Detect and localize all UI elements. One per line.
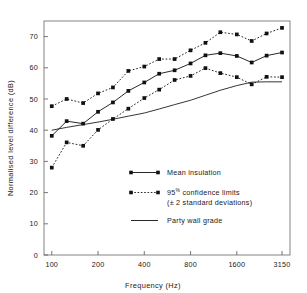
- data-point: [50, 104, 54, 108]
- legend-marker-mean-right: [156, 171, 160, 175]
- data-point: [235, 75, 239, 79]
- data-point: [111, 86, 115, 90]
- data-point: [189, 48, 193, 52]
- data-point: [50, 134, 54, 138]
- y-tick-label-20: 20: [30, 188, 38, 197]
- data-point: [280, 51, 284, 55]
- data-point: [235, 33, 239, 37]
- data-point: [157, 88, 161, 92]
- data-point: [173, 57, 177, 61]
- data-point: [280, 75, 284, 79]
- data-point: [127, 107, 131, 111]
- chart-canvas: 010203040506070 10020040080016003150 Fre…: [0, 0, 307, 293]
- y-tick-label-10: 10: [30, 219, 38, 228]
- chart-figure: 010203040506070 10020040080016003150 Fre…: [0, 0, 307, 293]
- legend-marker-confidence-left: [129, 191, 133, 195]
- data-point: [157, 72, 161, 76]
- x-tick-label-1600: 1600: [228, 260, 245, 269]
- data-point: [280, 26, 284, 30]
- data-point: [265, 75, 269, 79]
- data-point: [235, 54, 239, 58]
- data-point: [96, 92, 100, 96]
- legend-label-grade: Party wall grade: [167, 216, 223, 225]
- x-axis-title: Frequency (Hz): [125, 281, 181, 290]
- y-tick-label-50: 50: [30, 95, 38, 104]
- data-point: [218, 51, 222, 55]
- data-point: [65, 119, 69, 123]
- y-tick-label-30: 30: [30, 157, 38, 166]
- data-point: [81, 101, 85, 105]
- data-point: [111, 101, 115, 105]
- data-point: [204, 66, 208, 70]
- data-point: [250, 82, 254, 86]
- data-point: [218, 71, 222, 75]
- y-tick-label-0: 0: [34, 251, 38, 260]
- data-point: [265, 32, 269, 36]
- data-point: [142, 65, 146, 69]
- x-tick-label-800: 800: [184, 260, 197, 269]
- data-point: [189, 74, 193, 78]
- legend-label-confidence-line2: (± 2 standard deviations): [167, 198, 252, 207]
- data-point: [50, 166, 54, 170]
- data-point: [127, 89, 131, 93]
- legend-marker-confidence-right: [156, 191, 160, 195]
- data-point: [142, 81, 146, 85]
- data-point: [157, 57, 161, 61]
- data-point: [250, 61, 254, 65]
- x-tick-label-3150: 3150: [274, 260, 291, 269]
- y-axis-title: Normalised level difference (dB): [6, 80, 15, 196]
- y-tick-label-60: 60: [30, 63, 38, 72]
- data-point: [265, 54, 269, 58]
- data-point: [65, 97, 69, 101]
- legend-label-confidence-post: confidence limits: [182, 188, 240, 197]
- legend-label-confidence-pre: 95: [167, 188, 176, 197]
- data-point: [173, 78, 177, 82]
- x-tick-label-200: 200: [92, 260, 105, 269]
- legend-marker-mean-left: [129, 171, 133, 175]
- data-point: [142, 96, 146, 100]
- data-point: [250, 39, 254, 43]
- data-point: [127, 69, 131, 73]
- data-point: [218, 30, 222, 34]
- y-tick-label-40: 40: [30, 126, 38, 135]
- x-tick-label-100: 100: [45, 260, 58, 269]
- data-point: [173, 68, 177, 72]
- data-point: [96, 110, 100, 114]
- data-point: [65, 141, 69, 145]
- data-point: [81, 144, 85, 148]
- legend-label-mean: Mean insulation: [167, 168, 221, 177]
- data-point: [189, 62, 193, 66]
- data-point: [204, 41, 208, 45]
- data-point: [204, 53, 208, 57]
- x-tick-label-400: 400: [138, 260, 151, 269]
- y-tick-label-70: 70: [30, 32, 38, 41]
- data-point: [96, 128, 100, 132]
